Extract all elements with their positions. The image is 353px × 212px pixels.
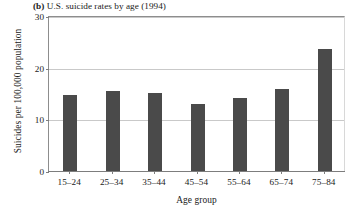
bar-45–54: [191, 104, 205, 172]
y-axis-title: Suicides per 100,000 population: [13, 11, 23, 171]
x-tick-label: 15–24: [57, 177, 80, 187]
y-tick-label: 30: [35, 12, 44, 22]
x-tick: [324, 171, 325, 174]
x-tick-label: 25–34: [100, 177, 123, 187]
y-tick-10: [46, 120, 49, 121]
figure-panel-b: (b) U.S. suicide rates by age (1994) Sui…: [0, 0, 353, 212]
bar-35–44: [148, 93, 162, 172]
plot-area: 0102030: [48, 16, 345, 172]
y-tick-label: 20: [35, 64, 44, 74]
y-tick-20: [46, 69, 49, 70]
x-tick: [69, 171, 70, 174]
x-axis-title: Age group: [48, 195, 345, 205]
panel-letter: (b): [33, 1, 44, 11]
x-tick: [239, 171, 240, 174]
figure-title-text: U.S. suicide rates by age (1994): [47, 1, 166, 11]
bar-65–74: [275, 89, 289, 172]
bar-25–34: [106, 91, 120, 172]
gridline-y-30: [49, 17, 344, 18]
x-tick-label: 75–84: [312, 177, 335, 187]
y-tick-label: 0: [39, 167, 44, 177]
figure-title: (b) U.S. suicide rates by age (1994): [33, 1, 166, 12]
gridline-y-20: [49, 69, 344, 70]
y-tick-30: [46, 17, 49, 18]
y-tick-0: [46, 172, 49, 173]
x-tick-label: 65–74: [270, 177, 293, 187]
x-tick-label: 35–44: [142, 177, 165, 187]
x-tick: [154, 171, 155, 174]
plot-inner: 0102030: [49, 17, 344, 172]
bar-15–24: [63, 95, 77, 172]
bar-55–64: [233, 98, 247, 172]
x-tick: [197, 171, 198, 174]
x-tick-label: 45–54: [185, 177, 208, 187]
x-tick-label: 55–64: [227, 177, 250, 187]
x-tick: [281, 171, 282, 174]
bar-75–84: [318, 49, 332, 172]
y-tick-label: 10: [35, 115, 44, 125]
x-tick: [112, 171, 113, 174]
